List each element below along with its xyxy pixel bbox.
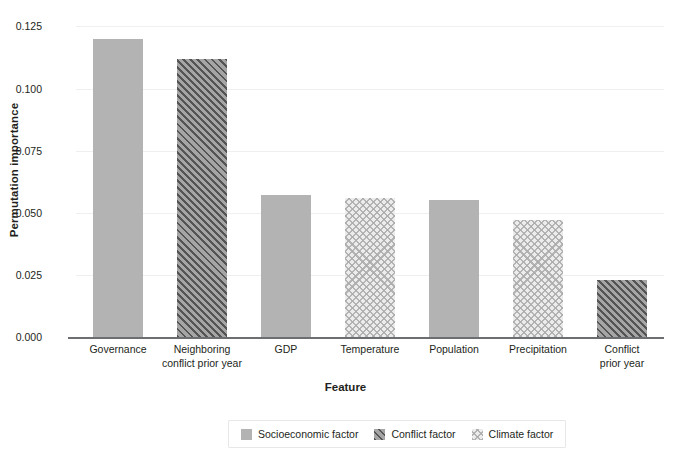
- x-tick-label-line: Conflict: [580, 342, 664, 356]
- gridline: [76, 26, 664, 27]
- y-tick-label: 0.000: [0, 331, 42, 343]
- legend-swatch-icon: [374, 429, 385, 440]
- x-tick-label-line: GDP: [244, 342, 328, 356]
- x-tick-label-line: Neighboring: [160, 342, 244, 356]
- legend-item[interactable]: Socioeconomic factor: [241, 428, 358, 440]
- x-tick-label-line: Governance: [76, 342, 160, 356]
- x-tick-label-line: prior year: [580, 356, 664, 370]
- bar: [261, 195, 311, 337]
- x-tick-label-line: Precipitation: [496, 342, 580, 356]
- bar: [345, 198, 395, 337]
- x-tick-label: Temperature: [328, 342, 412, 356]
- x-tick-label-line: conflict prior year: [160, 356, 244, 370]
- gridline: [76, 89, 664, 90]
- y-tick-label: 0.025: [0, 269, 42, 281]
- chart-legend: Socioeconomic factorConflict factorClima…: [228, 420, 566, 448]
- x-tick-label-line: Temperature: [328, 342, 412, 356]
- legend-item[interactable]: Climate factor: [472, 428, 554, 440]
- bar: [597, 280, 647, 337]
- y-tick-label: 0.050: [0, 207, 42, 219]
- legend-label: Conflict factor: [391, 428, 455, 440]
- y-tick-label: 0.075: [0, 145, 42, 157]
- x-axis-line: [68, 337, 664, 339]
- legend-swatch-icon: [472, 429, 483, 440]
- x-tick-label: Neighboringconflict prior year: [160, 342, 244, 370]
- bar: [177, 59, 227, 337]
- gridline: [76, 151, 664, 152]
- legend-label: Climate factor: [489, 428, 554, 440]
- x-tick-label: Population: [412, 342, 496, 356]
- x-tick-label: Conflictprior year: [580, 342, 664, 370]
- y-tick-label: 0.100: [0, 83, 42, 95]
- bar: [429, 200, 479, 337]
- x-tick-label: Governance: [76, 342, 160, 356]
- bar: [513, 220, 563, 337]
- x-tick-label-line: Population: [412, 342, 496, 356]
- legend-item[interactable]: Conflict factor: [374, 428, 455, 440]
- y-axis-title: Permutation importance: [2, 0, 26, 340]
- legend-label: Socioeconomic factor: [258, 428, 358, 440]
- permutation-importance-chart: Permutation importance 0.0000.0250.0500.…: [0, 0, 691, 472]
- plot-area: 0.0000.0250.0500.0750.1000.125: [76, 14, 664, 337]
- x-tick-label: Precipitation: [496, 342, 580, 356]
- x-tick-label: GDP: [244, 342, 328, 356]
- x-axis-title: Feature: [0, 381, 691, 393]
- bar: [93, 39, 143, 337]
- y-tick-label: 0.125: [0, 20, 42, 32]
- legend-swatch-icon: [241, 429, 252, 440]
